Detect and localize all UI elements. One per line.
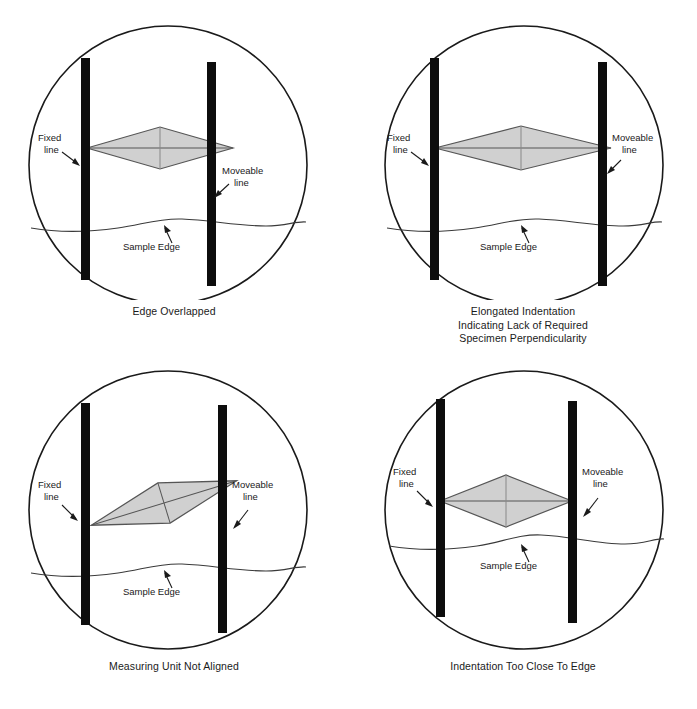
moveable-line-label-line1: Moveable (222, 165, 263, 176)
moveable-line-bar (598, 62, 607, 286)
panel-elongated-indentation: Fixed line Moveable line Sample Edge Elo… (349, 0, 697, 355)
moveable-line-bar (207, 62, 216, 286)
fixed-line-label-line1: Fixed (38, 479, 61, 490)
fixed-line-bar (81, 403, 90, 625)
fixed-line-label-line2: line (44, 491, 59, 502)
moveable-line-label-line1: Moveable (612, 132, 653, 143)
moveable-line-bar (568, 401, 577, 623)
scope-drawing: Fixed line Moveable line Sample Edge (349, 355, 697, 655)
moveable-line-label-line2: line (243, 491, 258, 502)
microscope-view-elongated-indentation: Fixed line Moveable line Sample Edge (349, 0, 697, 300)
fixed-line-bar (81, 58, 90, 280)
moveable-line-label-line1: Moveable (232, 479, 273, 490)
moveable-line-bar (218, 405, 227, 633)
moveable-line-label-line1: Moveable (582, 466, 623, 477)
microscope-view-measuring-unit-not-aligned: Fixed line Moveable line Sample Edge (0, 355, 348, 655)
fixed-line-label-line2: line (399, 478, 414, 489)
caption-line-1: Elongated Indentation (471, 305, 575, 317)
scope-drawing: Fixed line Moveable line Sample Edge (349, 0, 697, 300)
moveable-line-label-line2: line (234, 177, 249, 188)
moveable-line-label-line2: line (593, 478, 608, 489)
scope-drawing: Fixed line Moveable line Sample Edge (0, 0, 348, 300)
microscope-view-indentation-too-close-to-edge: Fixed line Moveable line Sample Edge (349, 355, 697, 655)
fixed-line-label-line1: Fixed (387, 132, 410, 143)
fixed-line-label-line1: Fixed (393, 466, 416, 477)
moveable-line-label-line2: line (622, 144, 637, 155)
panel-measuring-unit-not-aligned: Fixed line Moveable line Sample Edge Mea… (0, 355, 348, 709)
panel-caption-indentation-too-close-to-edge: Indentation Too Close To Edge (349, 660, 697, 674)
panel-edge-overlapped: Fixed line Moveable line Sample Edge Edg… (0, 0, 348, 355)
fixed-line-label-line2: line (44, 144, 59, 155)
panel-indentation-too-close-to-edge: Fixed line Moveable line Sample Edge Ind… (349, 355, 697, 709)
indentation-examples-figure: Fixed line Moveable line Sample Edge Edg… (0, 0, 697, 709)
panel-caption-measuring-unit-not-aligned: Measuring Unit Not Aligned (0, 660, 348, 674)
panel-caption-edge-overlapped: Edge Overlapped (0, 305, 348, 319)
caption-line-2: Indicating Lack of Required (458, 319, 588, 331)
microscope-view-edge-overlapped: Fixed line Moveable line Sample Edge (0, 0, 348, 300)
fixed-line-label-line1: Fixed (38, 132, 61, 143)
scope-drawing: Fixed line Moveable line Sample Edge (0, 355, 348, 655)
caption-line-3: Specimen Perpendicularity (459, 332, 586, 344)
fixed-line-label-line2: line (393, 144, 408, 155)
fixed-line-bar (436, 399, 445, 617)
panel-caption-elongated-indentation: Elongated IndentationIndicating Lack of … (349, 305, 697, 346)
fixed-line-bar (430, 58, 439, 280)
